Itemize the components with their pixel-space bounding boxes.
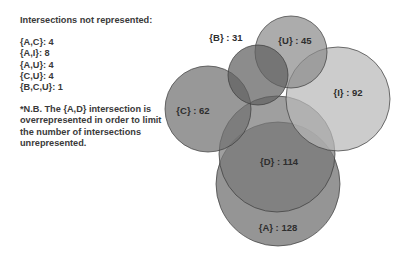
venn-diagram: {A} : 128{D} : 114{I} : 92{C} : 62{U} : … bbox=[0, 0, 408, 258]
set-label-i: {I} : 92 bbox=[333, 87, 362, 98]
set-label-d: {D} : 114 bbox=[260, 156, 299, 167]
set-label-c: {C} : 62 bbox=[176, 105, 209, 116]
set-circle-b bbox=[228, 45, 288, 105]
set-label-a: {A} : 128 bbox=[259, 222, 298, 233]
set-label-b: {B} : 31 bbox=[209, 32, 243, 43]
set-label-u: {U} : 45 bbox=[278, 35, 312, 46]
